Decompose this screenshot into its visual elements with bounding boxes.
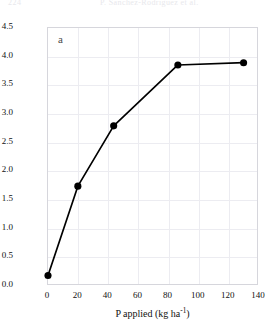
series-line [48,63,244,276]
data-point-marker [110,122,117,129]
data-point-marker [74,183,81,190]
x-axis-title-tail: ) [186,308,189,319]
x-tick-label: 0 [34,291,60,300]
data-point-marker [44,272,51,279]
x-axis-title-text: P applied (kg ha [115,308,180,319]
y-tick-label: 1.0 [0,223,13,232]
series-line-chart [48,28,257,284]
y-tick-label: 2.0 [0,165,13,174]
y-tick-label: 2.5 [0,137,13,146]
data-point-marker [240,59,247,66]
x-tick-label: 140 [245,291,271,300]
x-tick-label: 120 [215,291,241,300]
y-tick-label: 0.5 [0,251,13,260]
x-tick-label: 60 [124,291,150,300]
y-tick-label: 4.5 [0,22,13,31]
y-tick-label: 4.0 [0,51,13,60]
figure-panel-a: Yield (Mg ha-1) 0.00.51.01.52.02.53.03.5… [0,11,275,332]
page-header: 224 P. Sanchez-Rodriguez et al. [0,0,275,11]
x-tick-label: 80 [155,291,181,300]
y-tick-label: 1.5 [0,194,13,203]
y-tick-label: 3.5 [0,79,13,88]
y-tick-label: 0.0 [0,280,13,289]
x-tick-label: 100 [185,291,211,300]
x-tick-label: 40 [94,291,120,300]
x-axis-title: P applied (kg ha-1) [47,308,258,319]
page-header-left: 224 [8,0,22,7]
plot-area: a [47,27,258,285]
page-header-right: P. Sanchez-Rodriguez et al. [100,0,199,7]
y-tick-label: 3.0 [0,108,13,117]
data-point-marker [174,61,181,68]
x-tick-label: 20 [64,291,90,300]
